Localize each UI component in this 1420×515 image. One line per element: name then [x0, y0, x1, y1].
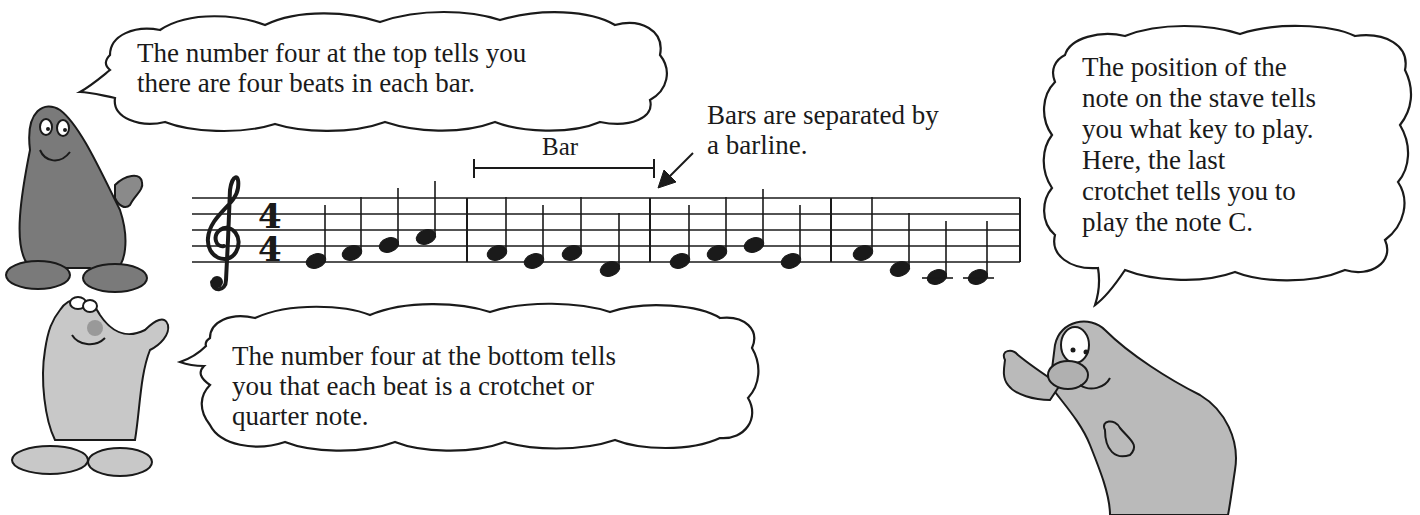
bubble-line: The number four at the bottom tells — [232, 341, 616, 371]
note-E4 — [522, 205, 546, 271]
note-C4 — [922, 221, 953, 287]
time-signature: 4 4 — [258, 196, 282, 269]
dark-character — [6, 106, 147, 292]
bar-label: Bar — [542, 132, 578, 162]
bubble-line: The number four at the top tells you — [137, 38, 526, 68]
light-character — [12, 297, 168, 476]
note-G4 — [742, 189, 766, 255]
note-E4 — [304, 205, 328, 271]
bubble-line: you what key to play. — [1082, 114, 1316, 145]
time-signature-bottom: 4 — [258, 229, 282, 269]
barline-annotation: Bars are separated by a barline. — [707, 100, 939, 160]
bubble-text-bottom-left: The number four at the bottom tells you … — [232, 341, 616, 431]
treble-clef-icon — [208, 177, 239, 289]
bubble-line: quarter note. — [232, 401, 616, 431]
bubble-text-top-left: The number four at the top tells you the… — [137, 38, 526, 98]
bubble-line: Here, the last — [1082, 145, 1316, 176]
bubble-line: play the note C. — [1082, 207, 1316, 238]
music-stave — [192, 198, 1020, 262]
annotation-line: Bars are separated by — [707, 100, 939, 130]
bubble-line: there are four beats in each bar. — [137, 68, 526, 98]
bubble-line: you that each beat is a crotchet or — [232, 371, 616, 401]
bubble-line: crotchet tells you to — [1082, 176, 1316, 207]
pointing-character — [1004, 322, 1236, 515]
note-C4-last — [963, 221, 994, 287]
note-E4 — [668, 205, 692, 271]
bubble-line: The position of the — [1082, 52, 1316, 83]
annotation-line: a barline. — [707, 130, 939, 160]
bubble-text-right: The position of the note on the stave te… — [1082, 52, 1316, 238]
arrow-icon — [658, 153, 693, 188]
bubble-line: note on the stave tells — [1082, 83, 1316, 114]
note-E4 — [779, 205, 803, 271]
